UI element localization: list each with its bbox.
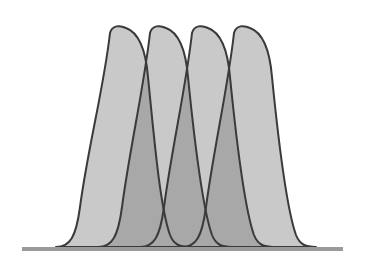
baseline-axis (22, 247, 343, 251)
peaks-canvas (0, 0, 366, 277)
peak-diagram (0, 0, 366, 277)
